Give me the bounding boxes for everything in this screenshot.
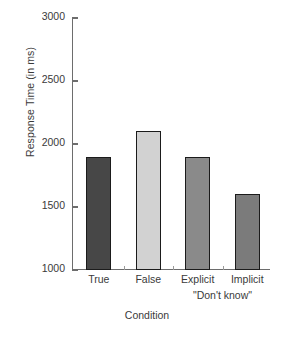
y-tick-label: 2500	[42, 73, 65, 85]
x-axis-labels: TrueFalseExplicitImplicit	[72, 273, 270, 289]
y-tick-label: 2000	[42, 136, 65, 148]
bar-series	[72, 18, 270, 270]
y-axis-title: Response Time (in ms)	[24, 12, 36, 192]
y-tick-label: 3000	[42, 10, 65, 22]
y-tick-label: 1500	[42, 199, 65, 211]
bar	[136, 131, 161, 270]
x-tick-label: Implicit	[217, 273, 277, 285]
bar	[185, 157, 210, 270]
bar-chart-figure: Response Time (in ms) 100015002000250030…	[0, 0, 294, 338]
bar	[235, 194, 260, 270]
y-tick-label: 1000	[42, 262, 65, 274]
group-bracket-label: "Don't know"	[178, 289, 268, 301]
x-axis-title: Condition	[0, 309, 294, 321]
bar	[86, 157, 111, 270]
plot-area: 10001500200025003000	[72, 18, 270, 270]
